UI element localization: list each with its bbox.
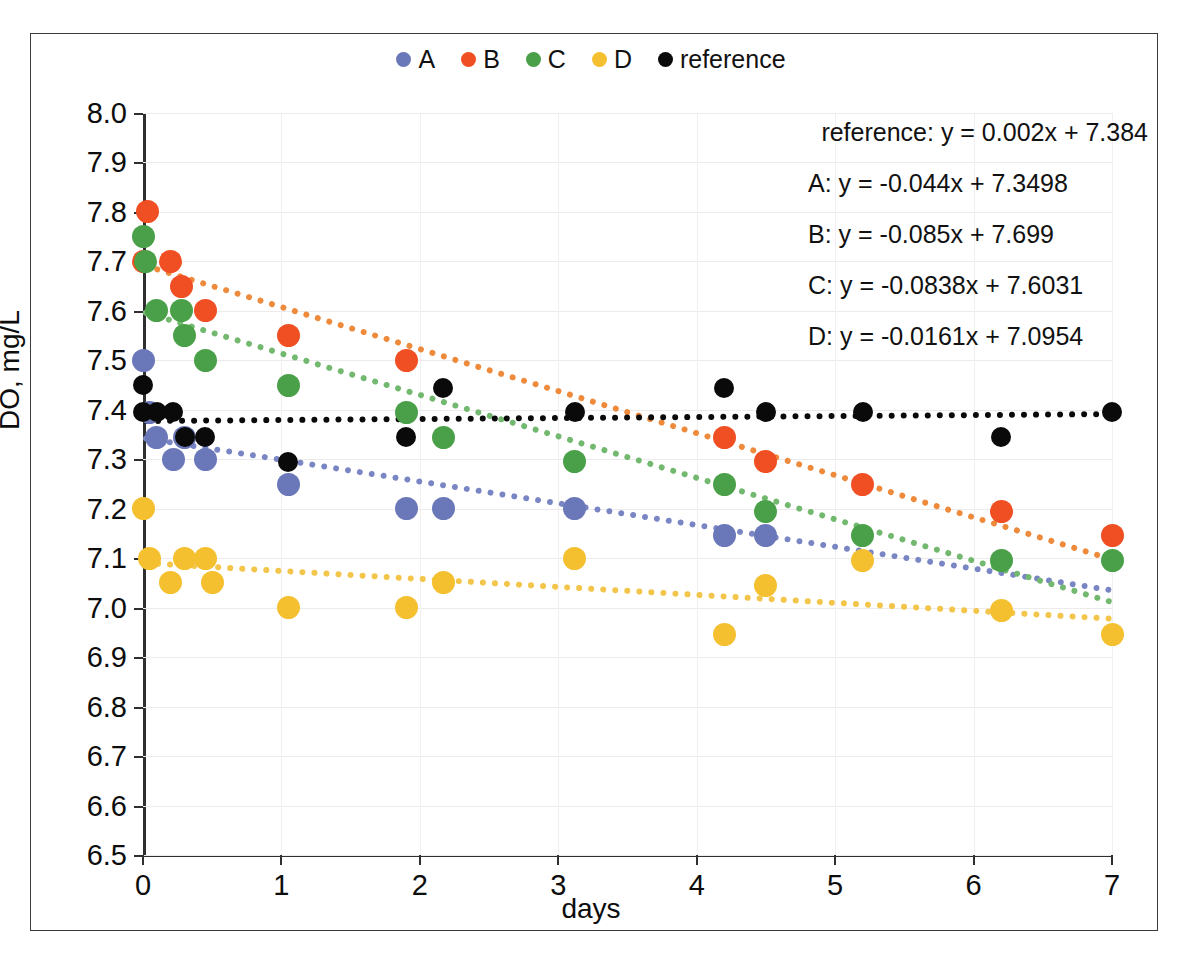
y-axis-tick-label: 7.3 <box>17 443 127 476</box>
legend-label: A <box>418 47 435 72</box>
x-axis-tick <box>1111 855 1113 865</box>
y-axis-tick <box>134 707 143 709</box>
y-axis-tick-label: 6.9 <box>17 641 127 674</box>
data-point-c <box>432 426 455 449</box>
y-axis-tick <box>134 113 143 115</box>
y-axis-tick-label: 7.4 <box>17 394 127 427</box>
equation-line-2: B: y = -0.085x + 7.699 <box>760 220 1152 249</box>
x-axis-tick-label: 5 <box>805 869 865 902</box>
legend-item-a[interactable]: A <box>396 47 435 72</box>
legend-label: D <box>614 47 632 72</box>
data-point-c <box>173 324 196 347</box>
regression-equations: reference: y = 0.002x + 7.384A: y = -0.0… <box>760 118 1152 373</box>
x-axis-tick <box>280 855 282 865</box>
data-point-c <box>713 473 736 496</box>
x-axis-tick <box>696 855 698 865</box>
equation-line-0: reference: y = 0.002x + 7.384 <box>760 118 1152 147</box>
x-axis-tick <box>973 855 975 865</box>
y-axis-tick <box>134 459 143 461</box>
data-point-reference <box>278 452 298 472</box>
data-point-c <box>132 225 155 248</box>
x-axis-tick-label: 0 <box>113 869 173 902</box>
data-point-a <box>132 349 155 372</box>
gridline-horizontal <box>143 806 1112 807</box>
data-point-b <box>851 473 874 496</box>
y-axis-tick-label: 6.5 <box>17 839 127 872</box>
x-axis-tick <box>834 855 836 865</box>
gridline-horizontal <box>143 707 1112 708</box>
x-axis-tick <box>419 855 421 865</box>
y-axis-tick-label: 7.6 <box>17 295 127 328</box>
y-axis-tick-label: 7.5 <box>17 344 127 377</box>
x-axis-tick-label: 6 <box>944 869 1004 902</box>
gridline-horizontal <box>143 855 1112 856</box>
y-axis-tick-label: 7.0 <box>17 592 127 625</box>
data-point-d <box>138 547 161 570</box>
data-point-a <box>277 473 300 496</box>
data-point-reference <box>714 378 734 398</box>
data-point-b <box>136 200 159 223</box>
data-point-b <box>159 250 182 273</box>
y-axis-tick-label: 6.6 <box>17 790 127 823</box>
chart-figure: ABCDreference DO, mg/L days reference: y… <box>0 0 1182 972</box>
data-point-d <box>201 571 224 594</box>
x-axis-tick-label: 4 <box>667 869 727 902</box>
legend-marker-icon <box>658 52 673 67</box>
data-point-a <box>194 448 217 471</box>
y-axis-tick <box>134 608 143 610</box>
y-axis-tick-label: 8.0 <box>17 97 127 130</box>
x-axis-tick-label: 1 <box>251 869 311 902</box>
x-axis-tick <box>142 855 144 865</box>
data-point-a <box>162 448 185 471</box>
data-point-d <box>277 596 300 619</box>
x-axis-tick-label: 3 <box>528 869 588 902</box>
legend-item-b[interactable]: B <box>461 47 500 72</box>
y-axis-tick-label: 7.8 <box>17 196 127 229</box>
x-axis-title: days <box>0 893 1182 925</box>
gridline-horizontal <box>143 657 1112 658</box>
y-axis-tick-label: 7.1 <box>17 542 127 575</box>
legend-marker-icon <box>461 52 476 67</box>
data-point-b <box>713 426 736 449</box>
y-axis-tick <box>134 162 143 164</box>
data-point-c <box>194 349 217 372</box>
data-point-c <box>134 250 157 273</box>
y-axis-tick-label: 7.9 <box>17 146 127 179</box>
data-point-c <box>754 500 777 523</box>
x-axis-tick-label: 2 <box>390 869 450 902</box>
y-axis-tick <box>134 756 143 758</box>
data-point-c <box>1101 549 1124 572</box>
legend-label: C <box>548 47 566 72</box>
y-axis-tick-label: 6.8 <box>17 691 127 724</box>
x-axis-tick-label: 7 <box>1082 869 1142 902</box>
equation-line-3: C: y = -0.0838x + 7.6031 <box>760 271 1152 300</box>
data-point-d <box>132 497 155 520</box>
data-point-b <box>277 324 300 347</box>
data-point-c <box>395 401 418 424</box>
equation-line-4: D: y = -0.0161x + 7.0954 <box>760 322 1152 351</box>
data-point-b <box>990 500 1013 523</box>
legend-item-reference[interactable]: reference <box>658 47 786 72</box>
data-point-reference <box>396 427 416 447</box>
legend-item-c[interactable]: C <box>526 47 566 72</box>
data-point-d <box>194 547 217 570</box>
data-point-reference <box>175 427 195 447</box>
equation-line-1: A: y = -0.044x + 7.3498 <box>760 169 1152 198</box>
gridline-horizontal <box>143 756 1112 757</box>
legend-label: B <box>483 47 500 72</box>
data-point-b <box>395 349 418 372</box>
gridline-horizontal <box>143 113 1112 114</box>
data-point-d <box>990 599 1013 622</box>
data-point-d <box>563 547 586 570</box>
data-point-b <box>194 299 217 322</box>
legend-label: reference <box>680 47 786 72</box>
y-axis-tick-label: 6.7 <box>17 740 127 773</box>
data-point-d <box>173 547 196 570</box>
legend-marker-icon <box>592 52 607 67</box>
legend-item-d[interactable]: D <box>592 47 632 72</box>
data-point-d <box>1101 623 1124 646</box>
data-point-a <box>145 426 168 449</box>
data-point-reference <box>133 375 153 395</box>
data-point-a <box>395 497 418 520</box>
data-point-d <box>395 596 418 619</box>
